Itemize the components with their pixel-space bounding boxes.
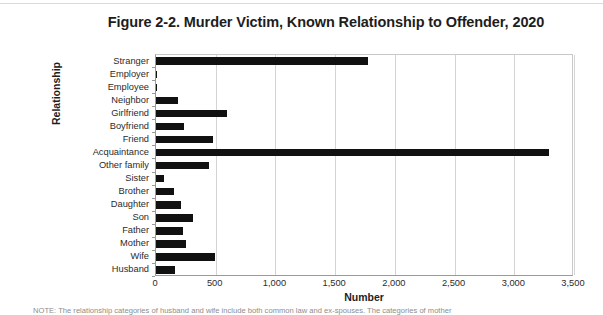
bar-row xyxy=(156,120,574,132)
x-label-1500: 1,500 xyxy=(323,278,346,289)
bar-boyfriend xyxy=(156,123,184,130)
bar-employee xyxy=(156,84,157,91)
y-label-employee: Employee xyxy=(108,82,149,92)
y-label-other-family: Other family xyxy=(99,160,149,170)
x-axis-tick-labels: 05001,0001,5002,0002,5003,0003,500 xyxy=(155,278,573,290)
bar-row xyxy=(156,55,574,67)
y-label-stranger: Stranger xyxy=(113,56,149,66)
y-label-son: Son xyxy=(132,212,149,222)
bar-son xyxy=(156,214,193,221)
bar-row xyxy=(156,133,574,145)
bar-row xyxy=(156,199,574,211)
x-label-3000: 3,000 xyxy=(502,278,525,289)
bar-mother xyxy=(156,240,186,247)
y-label-father: Father xyxy=(122,225,149,235)
bar-series xyxy=(156,55,572,275)
bar-stranger xyxy=(156,57,368,64)
bar-acquaintance xyxy=(156,149,549,156)
bar-row xyxy=(156,68,574,80)
bar-husband xyxy=(156,266,175,273)
x-label-2000: 2,000 xyxy=(382,278,405,289)
bar-wife xyxy=(156,253,215,260)
y-label-employer: Employer xyxy=(110,69,149,79)
figure-note: NOTE: The relationship categories of hus… xyxy=(33,306,593,315)
y-label-friend: Friend xyxy=(123,134,149,144)
bar-friend xyxy=(156,136,213,143)
bar-sister xyxy=(156,175,164,182)
y-label-girlfriend: Girlfriend xyxy=(111,108,149,118)
bar-row xyxy=(156,212,574,224)
bar-brother xyxy=(156,188,174,195)
bar-row xyxy=(156,264,574,276)
y-label-neighbor: Neighbor xyxy=(111,95,149,105)
x-label-3500: 3,500 xyxy=(561,278,584,289)
bar-row xyxy=(156,173,574,185)
bar-daughter xyxy=(156,201,181,208)
y-axis-category-labels: StrangerEmployerEmployeeNeighborGirlfrie… xyxy=(60,54,152,276)
bar-row xyxy=(156,238,574,250)
x-label-500: 500 xyxy=(207,278,223,289)
bar-row xyxy=(156,81,574,93)
bar-chart-plot-area xyxy=(155,54,573,276)
y-label-acquaintance: Acquaintance xyxy=(93,147,149,157)
bar-neighbor xyxy=(156,97,178,104)
page-title: Figure 2-2. Murder Victim, Known Relatio… xyxy=(96,13,556,32)
y-label-husband: Husband xyxy=(112,264,149,274)
y-tick xyxy=(152,276,155,277)
x-axis-title: Number xyxy=(155,291,573,303)
bar-row xyxy=(156,225,574,237)
x-label-0: 0 xyxy=(152,278,157,289)
bar-row xyxy=(156,146,574,158)
x-label-2500: 2,500 xyxy=(442,278,465,289)
y-label-daughter: Daughter xyxy=(111,199,149,209)
y-label-brother: Brother xyxy=(119,186,150,196)
y-label-mother: Mother xyxy=(120,238,149,248)
bar-father xyxy=(156,227,183,234)
gridline-3500 xyxy=(574,55,575,275)
bar-row xyxy=(156,159,574,171)
y-label-sister: Sister xyxy=(125,173,149,183)
bar-other-family xyxy=(156,162,209,169)
bar-girlfriend xyxy=(156,110,227,117)
y-label-boyfriend: Boyfriend xyxy=(110,121,149,131)
bar-employer xyxy=(156,71,157,78)
x-label-1000: 1,000 xyxy=(263,278,286,289)
bar-row xyxy=(156,251,574,263)
page-top-rule xyxy=(0,3,603,4)
figure-page: Figure 2-2. Murder Victim, Known Relatio… xyxy=(0,0,603,315)
bar-row xyxy=(156,94,574,106)
y-label-wife: Wife xyxy=(130,251,149,261)
bar-row xyxy=(156,186,574,198)
bar-row xyxy=(156,107,574,119)
